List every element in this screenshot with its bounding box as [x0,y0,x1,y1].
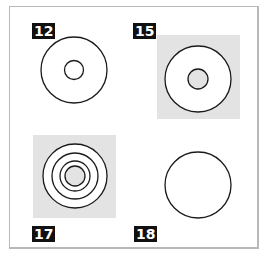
panel-label-15: 15 [133,23,156,39]
panel-12-rings [41,37,107,103]
panel-17-rings [43,144,107,208]
panel-label-17: 17 [32,226,55,242]
panel-label-18: 18 [134,226,157,242]
panel-18-rings [165,152,231,218]
panel-label-12: 12 [32,23,55,39]
panel-15-rings [165,46,231,112]
